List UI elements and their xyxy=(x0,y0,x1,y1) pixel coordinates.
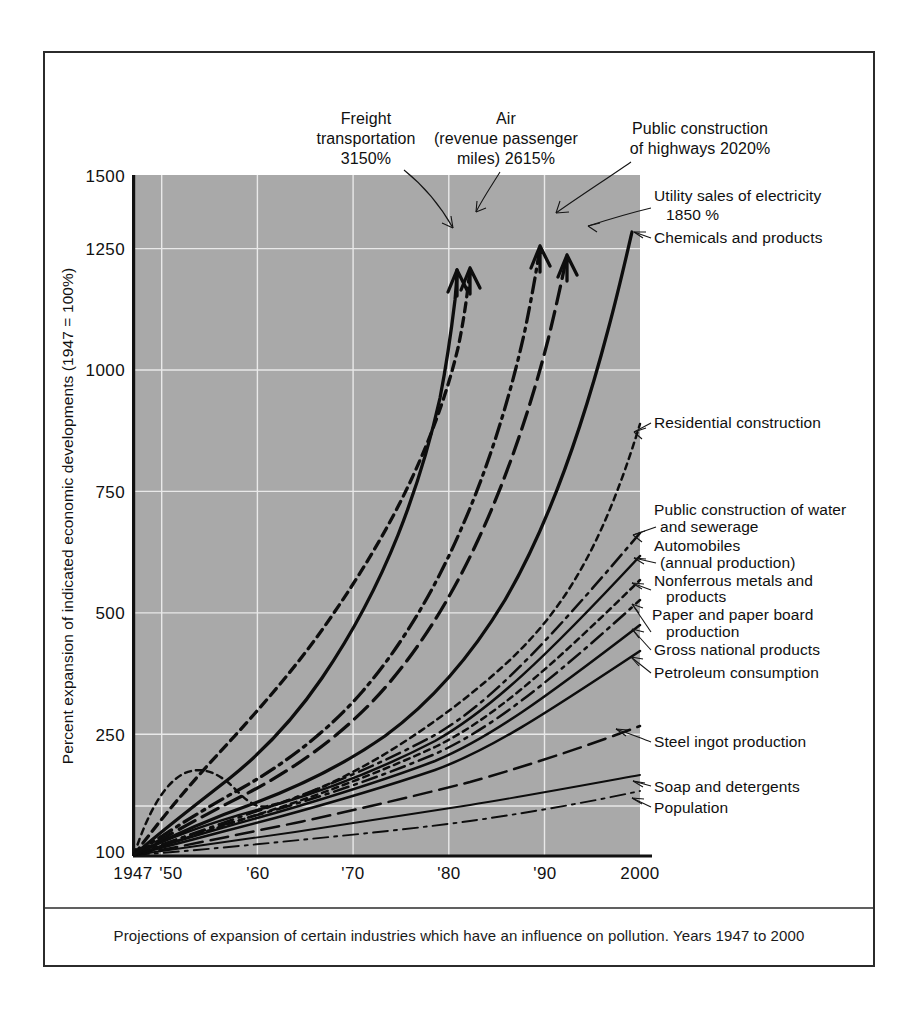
callout-air-line2: (revenue passenger xyxy=(434,130,579,147)
x-tick-1950: '50 xyxy=(159,864,182,883)
label-electricity-line2: 1850 % xyxy=(666,206,719,223)
x-tick-1960: '60 xyxy=(246,864,269,883)
callout-highways-line2: of highways 2020% xyxy=(630,140,770,157)
label-paper-line1: Paper and paper board xyxy=(652,606,814,623)
y-axis-tick-labels: 1500 1250 1000 750 500 250 100 xyxy=(86,167,125,862)
label-paper-line2: production xyxy=(666,623,739,640)
x-tick-1947: 1947 xyxy=(113,864,152,883)
label-residential-construction: Residential construction xyxy=(654,414,821,431)
y-tick-1000: 1000 xyxy=(86,361,125,380)
callout-air-line1: Air xyxy=(496,110,516,127)
figure-caption: Projections of expansion of certain indu… xyxy=(114,927,805,944)
callout-freight-line3: 3150% xyxy=(341,150,391,167)
label-steel-ingot-production: Steel ingot production xyxy=(654,733,806,750)
y-tick-750: 750 xyxy=(95,483,125,502)
label-automobiles-line1: Automobiles xyxy=(654,537,741,554)
callout-nonferrous: Nonferrous metals and products xyxy=(654,572,813,605)
chart-svg: 1500 1250 1000 750 500 250 100 Percent e… xyxy=(0,0,924,1027)
y-tick-100: 100 xyxy=(95,843,125,862)
x-tick-2000: 2000 xyxy=(620,864,659,883)
label-electricity-line1: Utility sales of electricity xyxy=(654,187,821,204)
label-petroleum-consumption: Petroleum consumption xyxy=(654,664,819,681)
x-axis-tick-labels: 1947 '50 '60 '70 '80 '90 2000 xyxy=(113,864,659,883)
callout-air-line3: miles) 2615% xyxy=(457,150,555,167)
label-nonferrous-line1: Nonferrous metals and xyxy=(654,572,813,589)
callout-automobiles: Automobiles (annual production) xyxy=(654,537,795,571)
callout-highways-line1: Public construction xyxy=(632,120,768,137)
label-water-line1: Public construction of water xyxy=(654,501,846,518)
callout-freight-line2: transportation xyxy=(316,130,415,147)
x-tick-1980: '80 xyxy=(437,864,460,883)
callout-air: Air (revenue passenger miles) 2615% xyxy=(434,110,579,167)
label-chemicals-and-products: Chemicals and products xyxy=(654,229,823,246)
label-soap-and-detergents: Soap and detergents xyxy=(654,778,800,795)
label-nonferrous-line2: products xyxy=(666,588,726,605)
chart-stage: 1500 1250 1000 750 500 250 100 Percent e… xyxy=(0,0,924,1027)
y-tick-250: 250 xyxy=(95,726,125,745)
label-water-line2: and sewerage xyxy=(660,518,759,535)
callout-water-and-sewerage: Public construction of water and sewerag… xyxy=(654,501,846,535)
callout-highways: Public construction of highways 2020% xyxy=(630,120,770,157)
x-tick-1970: '70 xyxy=(341,864,364,883)
callout-paper: Paper and paper board production xyxy=(652,606,814,640)
y-tick-1250: 1250 xyxy=(86,240,125,259)
x-tick-1990: '90 xyxy=(533,864,556,883)
y-tick-500: 500 xyxy=(95,604,125,623)
label-automobiles-line2: (annual production) xyxy=(660,554,795,571)
callout-utility-sales-of-electricity: Utility sales of electricity 1850 % xyxy=(654,187,821,223)
label-gross-national-products: Gross national products xyxy=(654,641,820,658)
label-population: Population xyxy=(654,799,728,816)
callout-freight-line1: Freight xyxy=(341,110,392,127)
callout-freight-transportation: Freight transportation 3150% xyxy=(316,110,415,167)
y-tick-1500: 1500 xyxy=(86,167,125,186)
y-axis-title: Percent expansion of indicated economic … xyxy=(59,268,76,764)
